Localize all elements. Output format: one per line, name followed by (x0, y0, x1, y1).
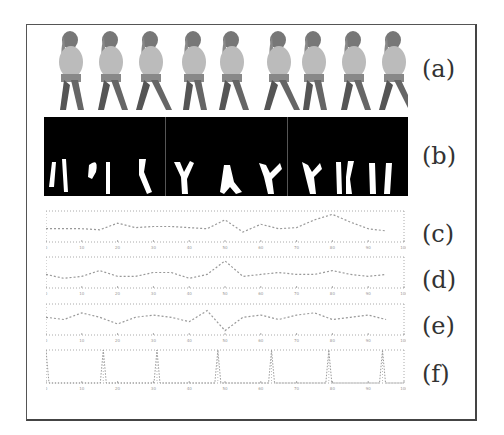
svg-text:30: 30 (151, 338, 157, 343)
panel-label-f: (f) (422, 360, 450, 388)
walking-frames-strip (44, 30, 408, 116)
svg-text:20: 20 (115, 386, 121, 391)
svg-text:70: 70 (294, 386, 300, 391)
svg-text:40: 40 (187, 338, 193, 343)
svg-text:40: 40 (187, 291, 193, 296)
svg-text:90: 90 (366, 386, 372, 391)
svg-text:20: 20 (115, 338, 121, 343)
svg-text:30: 30 (151, 291, 157, 296)
svg-text:60: 60 (258, 338, 264, 343)
svg-text:90: 90 (366, 291, 372, 296)
svg-text:50: 50 (222, 245, 228, 250)
svg-text:70: 70 (294, 338, 300, 343)
svg-text:50: 50 (222, 291, 228, 296)
svg-text:50: 50 (222, 338, 228, 343)
plot-e: 0102030405060708090100 (46, 301, 406, 343)
walking-person-frames (44, 30, 408, 116)
svg-text:0: 0 (46, 291, 48, 296)
svg-text:100: 100 (400, 245, 406, 250)
svg-text:20: 20 (115, 245, 121, 250)
svg-text:60: 60 (258, 386, 264, 391)
svg-text:50: 50 (222, 386, 228, 391)
svg-text:10: 10 (79, 338, 85, 343)
svg-text:90: 90 (366, 338, 372, 343)
plot-d: 0102030405060708090100 (46, 254, 406, 296)
panel-label-a: (a) (422, 55, 455, 83)
plot-c: 0102030405060708090100 (46, 208, 406, 250)
svg-text:60: 60 (258, 291, 264, 296)
svg-text:100: 100 (400, 386, 406, 391)
panel-label-b: (b) (422, 142, 456, 170)
svg-text:10: 10 (79, 291, 85, 296)
svg-text:40: 40 (187, 245, 193, 250)
svg-text:80: 80 (330, 291, 336, 296)
panel-label-e: (e) (422, 312, 455, 340)
svg-text:100: 100 (400, 338, 406, 343)
svg-text:0: 0 (46, 338, 48, 343)
svg-text:10: 10 (79, 386, 85, 391)
svg-text:40: 40 (187, 386, 193, 391)
svg-text:70: 70 (294, 245, 300, 250)
svg-text:0: 0 (46, 245, 48, 250)
svg-text:10: 10 (79, 245, 85, 250)
svg-text:20: 20 (115, 291, 121, 296)
silhouette-strip (44, 117, 408, 196)
svg-text:70: 70 (294, 291, 300, 296)
panel-label-d: (d) (422, 266, 456, 294)
svg-text:30: 30 (151, 386, 157, 391)
leg-silhouettes (44, 117, 408, 196)
svg-text:90: 90 (366, 245, 372, 250)
svg-text:80: 80 (330, 338, 336, 343)
svg-text:60: 60 (258, 245, 264, 250)
svg-text:80: 80 (330, 245, 336, 250)
svg-text:30: 30 (151, 245, 157, 250)
svg-text:80: 80 (330, 386, 336, 391)
svg-text:0: 0 (46, 386, 48, 391)
svg-text:100: 100 (400, 291, 406, 296)
panel-label-c: (c) (422, 220, 454, 248)
plot-f: 0102030405060708090100 (46, 347, 406, 391)
